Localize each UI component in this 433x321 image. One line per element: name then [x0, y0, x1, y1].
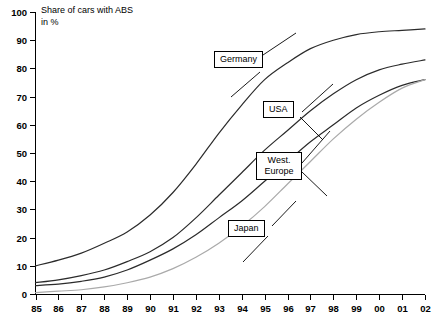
- x-axis-ticks: [37, 295, 426, 301]
- x-tick-label: 88: [99, 303, 110, 314]
- x-tick-label: 87: [76, 303, 87, 314]
- y-tick-label: 90: [16, 35, 27, 46]
- x-tick-label: 94: [237, 303, 248, 314]
- y-axis-tick-labels: 0102030405060708090100: [11, 7, 27, 300]
- line-chart: 0102030405060708090100 85868788899091929…: [0, 0, 433, 321]
- x-tick-label: 92: [191, 303, 202, 314]
- x-axis-tick-labels: 858687888990919293949596979899000102: [31, 303, 431, 314]
- chart-title-unit: in %: [41, 16, 59, 28]
- y-tick-label: 100: [11, 7, 27, 18]
- leader-line: [302, 84, 333, 112]
- series-label-usa: USA: [263, 101, 294, 118]
- y-tick-label: 10: [16, 261, 27, 272]
- y-tick-label: 0: [22, 289, 27, 300]
- x-tick-label: 89: [122, 303, 133, 314]
- leader-line: [260, 33, 296, 57]
- series-line-usa: [36, 60, 426, 283]
- x-tick-label: 97: [305, 303, 316, 314]
- x-tick-label: 86: [53, 303, 64, 314]
- x-tick-label: 91: [168, 303, 179, 314]
- x-tick-label: 01: [397, 303, 408, 314]
- leader-line: [300, 117, 323, 140]
- x-tick-label: 85: [31, 303, 42, 314]
- leader-line: [231, 72, 260, 97]
- leader-line: [302, 172, 327, 196]
- series-label-west-europe-line-2: Europe: [264, 166, 293, 176]
- y-tick-label: 60: [16, 120, 27, 131]
- y-axis-ticks: [30, 13, 36, 295]
- y-tick-label: 50: [16, 148, 27, 159]
- x-tick-label: 98: [328, 303, 339, 314]
- y-tick-label: 20: [16, 233, 27, 244]
- series-label-germany: Germany: [214, 51, 263, 68]
- leader-line: [243, 236, 268, 262]
- leader-line: [272, 201, 296, 226]
- x-tick-label: 02: [420, 303, 431, 314]
- x-tick-label: 90: [145, 303, 156, 314]
- y-tick-label: 80: [16, 63, 27, 74]
- x-tick-label: 93: [214, 303, 225, 314]
- series-label-west-europe-line-1: West.: [268, 155, 291, 165]
- y-tick-label: 30: [16, 204, 27, 215]
- y-tick-label: 40: [16, 176, 27, 187]
- x-tick-label: 95: [260, 303, 271, 314]
- x-tick-label: 96: [283, 303, 294, 314]
- leader-line: [302, 131, 330, 163]
- series-line-japan: [36, 80, 426, 293]
- chart-title-line-1: Share of cars with ABS: [41, 4, 133, 16]
- series-paths-group: [36, 29, 426, 293]
- x-tick-label: 00: [374, 303, 385, 314]
- chart-container: 0102030405060708090100 85868788899091929…: [0, 0, 433, 321]
- series-label-west-europe: West. Europe: [256, 152, 302, 180]
- x-tick-label: 99: [351, 303, 362, 314]
- y-tick-label: 70: [16, 92, 27, 103]
- series-label-japan: Japan: [228, 220, 265, 237]
